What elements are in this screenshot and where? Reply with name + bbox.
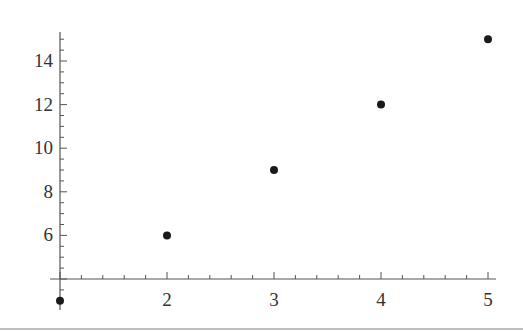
data-point bbox=[56, 297, 64, 305]
y-axis-ticks: 68101214 bbox=[34, 39, 67, 301]
data-points bbox=[56, 35, 492, 305]
bottom-divider bbox=[0, 328, 523, 330]
x-tick-label: 2 bbox=[162, 289, 172, 310]
scatter-plot: 2345 68101214 bbox=[0, 0, 523, 331]
y-tick-label: 14 bbox=[34, 50, 54, 71]
x-tick-label: 3 bbox=[269, 289, 279, 310]
data-point bbox=[484, 35, 492, 43]
data-point bbox=[377, 101, 385, 109]
data-point bbox=[270, 166, 278, 174]
y-tick-label: 10 bbox=[34, 137, 53, 158]
y-tick-label: 8 bbox=[44, 181, 54, 202]
x-tick-label: 5 bbox=[483, 289, 493, 310]
data-point bbox=[163, 231, 171, 239]
x-axis-ticks: 2345 bbox=[60, 272, 493, 310]
y-tick-label: 6 bbox=[44, 224, 54, 245]
y-tick-label: 12 bbox=[34, 94, 53, 115]
x-tick-label: 4 bbox=[376, 289, 386, 310]
